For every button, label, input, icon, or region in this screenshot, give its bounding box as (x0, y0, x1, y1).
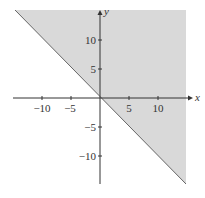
y-axis-label: y (103, 5, 109, 17)
x-tick-label: 10 (153, 102, 165, 114)
x-tick-label: −10 (33, 102, 51, 114)
x-axis-arrow-icon (188, 96, 193, 101)
y-tick-label: −5 (84, 121, 96, 133)
y-tick-label: 5 (91, 63, 97, 75)
x-axis-label: x (194, 91, 200, 103)
x-tick-label: 5 (126, 102, 132, 114)
chart: −10 −5 5 10 10 5 −5 −10 x y (0, 0, 205, 198)
y-tick-label: 10 (85, 34, 97, 46)
y-tick-label: −10 (79, 150, 97, 162)
x-tick-label: −5 (64, 102, 76, 114)
